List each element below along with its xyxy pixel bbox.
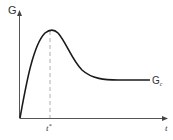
plateau-label: Gc	[152, 75, 163, 87]
y-axis-label: G	[8, 4, 17, 16]
y-axis-arrow-icon	[17, 10, 22, 16]
g-curve	[20, 30, 150, 118]
x-axis-arrow-icon	[162, 116, 168, 121]
diagram-canvas: G t t* Gc	[0, 0, 173, 140]
x-axis-label: t	[165, 123, 168, 133]
peak-time-label: t*	[46, 123, 52, 133]
